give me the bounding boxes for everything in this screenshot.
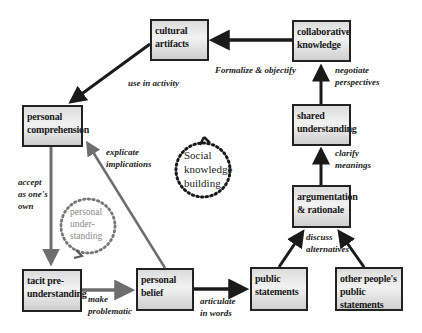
label-make-problematic: make problematic [88,293,132,317]
box-text: personal [141,273,189,286]
box-collaborative-knowledge: collaborative knowledge [292,20,351,62]
box-other-public-statements: other people's public statements [335,267,403,311]
label-text: articulate [200,295,236,307]
label-explicate-implications: explicate implications [106,146,152,170]
label-formalize-objectify: Formalize & objectify [215,64,296,76]
box-argumentation-rationale: argumentation & rationale [292,185,351,228]
box-text: belief [141,286,189,299]
label-text: discuss [306,231,349,243]
box-text: cultural [155,24,204,37]
box-text: public statements [340,285,398,311]
label-discuss-alternatives: discuss alternatives [306,231,349,255]
arrow-use-in-activity [72,44,150,101]
label-text: personal [70,206,102,218]
box-text: knowledge [297,38,346,51]
box-text: tacit pre- [27,274,77,287]
social-knowledge-building-label: Social knowledge building [184,148,232,190]
label-text: accept [18,176,48,188]
box-text: argumentation [297,190,346,203]
label-accept-as-own: accept as one's own [18,176,48,212]
label-text: make [88,293,132,305]
label-text: problematic [88,305,132,317]
box-personal-comprehension: personal comprehension [22,105,83,147]
label-text: explicate [106,146,152,158]
label-text: standing [70,230,102,242]
box-tacit-preunderstanding: tacit pre- understanding [22,269,82,312]
knowledge-building-diagram: cultural artifacts collaborative knowled… [0,0,422,333]
box-text: understanding [297,122,346,135]
label-text: as one's [18,188,48,200]
label-text: Formalize & objectify [215,64,296,76]
box-text: other people's [340,272,398,285]
label-text: knowledge [184,162,232,176]
box-text: comprehension [27,123,78,136]
label-negotiate-perspectives: negotiate perspectives [335,64,379,88]
box-public-statements: public statements [250,267,308,311]
personal-cycle-arrowhead [74,250,82,258]
label-use-in-activity: use in activity [128,77,179,89]
box-text: artifacts [155,37,204,50]
box-text: understanding [27,287,77,300]
label-text: alternatives [306,243,349,255]
label-text: own [18,200,48,212]
label-text: use in activity [128,77,179,89]
box-cultural-artifacts: cultural artifacts [150,19,209,61]
label-text: in words [200,307,236,319]
label-text: building [184,176,232,190]
box-personal-belief: personal belief [136,268,194,311]
label-clarify-meanings: clarify meanings [335,147,371,171]
label-text: clarify [335,147,371,159]
box-text: shared [297,109,346,122]
box-text: personal [27,110,78,123]
box-text: public [255,272,303,285]
label-text: negotiate [335,64,379,76]
label-text: perspectives [335,76,379,88]
box-text: statements [255,285,303,298]
label-text: implications [106,158,152,170]
label-text: Social [184,148,232,162]
arrow-discuss-left [279,233,302,267]
personal-understanding-label: personal under- standing [70,206,102,242]
label-text: meanings [335,159,371,171]
box-text: collaborative [297,25,346,38]
box-text: & rationale [297,203,346,216]
box-shared-understanding: shared understanding [292,104,351,146]
label-articulate-in-words: articulate in words [200,295,236,319]
label-text: under- [70,218,102,230]
